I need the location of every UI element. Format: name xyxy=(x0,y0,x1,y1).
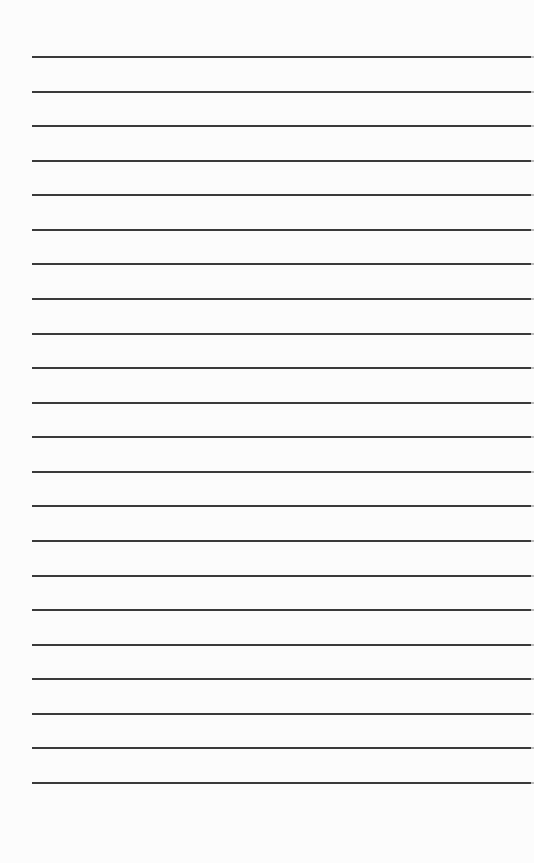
ruled-line xyxy=(32,609,531,611)
ruled-line xyxy=(32,644,531,646)
ruled-line xyxy=(32,782,531,784)
lined-paper-sheet xyxy=(0,0,534,863)
ruled-line xyxy=(32,367,531,369)
ruled-line xyxy=(32,471,531,473)
ruled-line xyxy=(32,747,531,749)
ruled-line xyxy=(32,575,531,577)
ruled-line xyxy=(32,91,531,93)
ruled-line xyxy=(32,263,531,265)
ruled-line xyxy=(32,505,531,507)
ruled-line xyxy=(32,436,531,438)
ruled-line xyxy=(32,56,531,58)
ruled-line xyxy=(32,402,531,404)
ruled-line xyxy=(32,160,531,162)
ruled-line xyxy=(32,678,531,680)
ruled-line xyxy=(32,540,531,542)
ruled-line xyxy=(32,298,531,300)
ruled-line xyxy=(32,333,531,335)
ruled-line xyxy=(32,194,531,196)
ruled-line xyxy=(32,229,531,231)
ruled-line xyxy=(32,125,531,127)
ruled-line xyxy=(32,713,531,715)
